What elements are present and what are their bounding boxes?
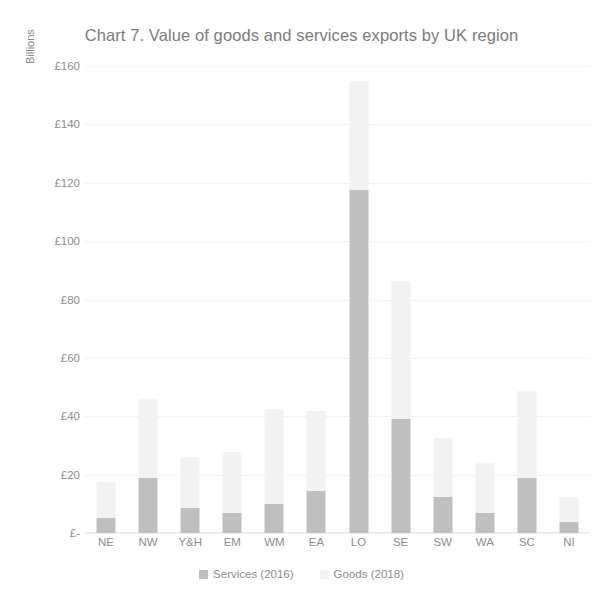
bar-segment-services[interactable] [265,504,284,533]
bar-segment-goods[interactable] [307,411,326,491]
bar-group[interactable] [422,66,464,533]
bar-segment-services[interactable] [307,491,326,533]
bar-stack[interactable] [559,497,578,533]
x-axis-tick-label: SC [506,536,548,548]
bar-stack[interactable] [349,81,368,533]
chart-title: Chart 7. Value of goods and services exp… [0,26,603,45]
bar-segment-services[interactable] [139,478,158,533]
chart-legend: Services (2016)Goods (2018) [0,568,603,580]
bar-segment-services[interactable] [349,190,368,533]
bar-stack[interactable] [307,411,326,533]
bar-group[interactable] [169,66,211,533]
x-axis-tick-label: Y&H [169,536,211,548]
bar-stack[interactable] [391,281,410,533]
legend-swatch-icon [320,570,329,579]
bar-group[interactable] [506,66,548,533]
y-axis-tick-label: £40 [34,410,80,422]
bar-group[interactable] [380,66,422,533]
bar-group[interactable] [338,66,380,533]
x-axis-tick-label: EM [211,536,253,548]
x-axis-tick-label: WM [253,536,295,548]
x-axis-tick-label: SW [422,536,464,548]
bar-segment-goods[interactable] [475,463,494,514]
y-axis-tick-label: £60 [34,352,80,364]
y-axis-tick-labels: £160£140£120£100£80£60£40£20£- [28,66,80,533]
bar-segment-services[interactable] [475,513,494,533]
bar-segment-services[interactable] [181,508,200,533]
bar-stack[interactable] [265,409,284,533]
legend-label: Goods (2018) [334,568,404,580]
bar-segment-goods[interactable] [559,497,578,522]
x-axis-tick-labels: NENWY&HEMWMEALOSESWWASCNI [85,536,590,556]
y-axis-tick-label: £- [34,527,80,539]
bar-group[interactable] [85,66,127,533]
bar-segment-services[interactable] [391,419,410,533]
x-axis-tick-label: LO [338,536,380,548]
x-axis-tick-label: WA [464,536,506,548]
x-axis-tick-label: NE [85,536,127,548]
gridline [85,533,590,534]
bar-segment-goods[interactable] [181,457,200,507]
bar-group[interactable] [548,66,590,533]
bar-segment-services[interactable] [559,522,578,533]
y-axis-tick-label: £120 [34,177,80,189]
bar-segment-goods[interactable] [223,452,242,514]
x-axis-tick-label: SE [380,536,422,548]
chart-container: Chart 7. Value of goods and services exp… [0,0,603,602]
bar-segment-goods[interactable] [349,81,368,190]
bar-stack[interactable] [517,391,536,533]
legend-label: Services (2016) [213,568,294,580]
bars-layer [85,66,590,533]
x-axis-tick-label: NW [127,536,169,548]
x-axis-tick-label: EA [295,536,337,548]
bar-group[interactable] [211,66,253,533]
bar-group[interactable] [127,66,169,533]
bar-segment-goods[interactable] [391,281,410,419]
bar-segment-services[interactable] [517,478,536,533]
y-axis-tick-label: £100 [34,235,80,247]
bar-segment-services[interactable] [433,497,452,533]
y-axis-tick-label: £20 [34,469,80,481]
bar-stack[interactable] [97,482,116,533]
bar-stack[interactable] [223,452,242,533]
bar-group[interactable] [253,66,295,533]
bar-group[interactable] [464,66,506,533]
bar-segment-services[interactable] [97,518,116,533]
bar-segment-goods[interactable] [97,482,116,518]
bar-stack[interactable] [475,463,494,533]
y-axis-tick-label: £140 [34,118,80,130]
bar-segment-goods[interactable] [517,391,536,478]
bar-segment-services[interactable] [223,513,242,533]
bar-segment-goods[interactable] [433,438,452,497]
legend-swatch-icon [199,570,208,579]
x-axis-tick-label: NI [548,536,590,548]
legend-item[interactable]: Services (2016) [199,568,294,580]
bar-stack[interactable] [139,399,158,533]
bar-stack[interactable] [433,438,452,533]
bar-segment-goods[interactable] [139,399,158,478]
bar-group[interactable] [295,66,337,533]
y-axis-tick-label: £80 [34,294,80,306]
legend-item[interactable]: Goods (2018) [320,568,404,580]
y-axis-title: Billions [24,29,36,64]
bar-stack[interactable] [181,457,200,533]
bar-segment-goods[interactable] [265,409,284,504]
y-axis-tick-label: £160 [34,60,80,72]
